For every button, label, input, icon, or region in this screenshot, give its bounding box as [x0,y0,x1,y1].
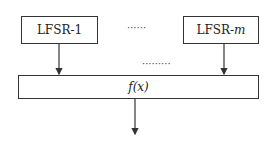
fx-box: f(x) [18,75,259,99]
ellipsis-top: ······ [127,22,146,33]
lfsr-m-label: LFSR-m [197,23,246,37]
fx-label: f(x) [128,80,149,94]
lfsr-1-box: LFSR-1 [21,16,98,44]
lfsr-m-box: LFSR-m [183,16,259,44]
lfsr-1-label: LFSR-1 [37,23,82,37]
ellipsis-mid: ········· [142,58,171,69]
